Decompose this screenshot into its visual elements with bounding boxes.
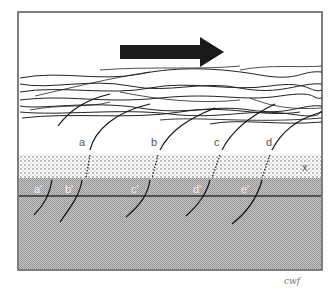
label-d: d [266, 136, 272, 148]
layer-label-x: x [302, 161, 308, 173]
diagram-canvas: a b c d x a' b' c' d' e' cwf [0, 0, 335, 296]
label-a-prime: a' [34, 183, 42, 195]
label-c-prime: c' [131, 183, 139, 195]
label-b: b [151, 136, 157, 148]
label-c: c [214, 136, 220, 148]
label-b-prime: b' [65, 183, 73, 195]
label-a: a [79, 136, 86, 148]
label-d-prime: d' [193, 183, 201, 195]
label-e-prime: e' [241, 183, 249, 195]
signature: cwf [284, 276, 302, 286]
dotted-layer [19, 155, 321, 178]
